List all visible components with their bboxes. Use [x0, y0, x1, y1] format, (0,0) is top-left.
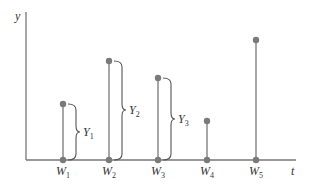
brace-y1 [68, 104, 80, 160]
stem-w3 [155, 75, 161, 163]
waiting-times-diagram: y t Y1 Y2 Y3 W1 W2 [0, 0, 311, 186]
w-label-2: W2 [102, 164, 116, 180]
t-axis-label: t [291, 164, 295, 178]
w-label-1: W1 [56, 164, 70, 180]
brace-label-y3: Y3 [178, 112, 189, 128]
stem-w1 [60, 101, 66, 163]
w-label-5: W5 [249, 164, 263, 180]
brace-label-y1: Y1 [83, 125, 94, 141]
brace-label-y2: Y2 [129, 103, 140, 119]
stem-w5 [253, 37, 259, 163]
w-label-3: W3 [151, 164, 165, 180]
stem-w2 [106, 58, 112, 163]
y-axis-label: y [14, 9, 21, 23]
stem-w4 [204, 118, 210, 163]
brace-y3 [163, 78, 175, 160]
point-w1-base [60, 157, 66, 163]
brace-y2 [114, 61, 126, 160]
w-label-4: W4 [200, 164, 214, 180]
